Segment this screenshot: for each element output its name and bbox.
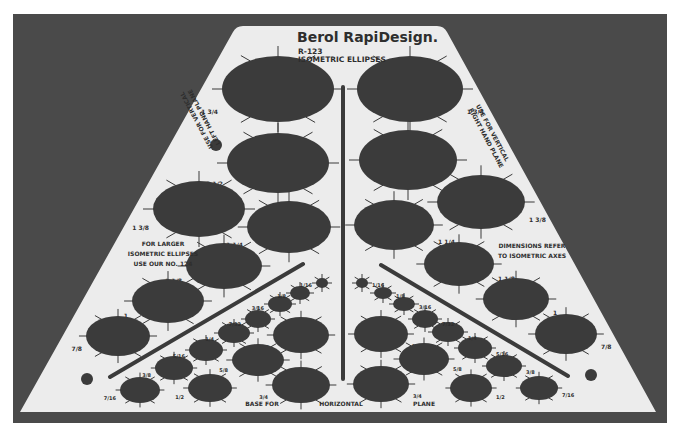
ellipse-size-label: 7/32 — [442, 321, 455, 327]
ellipse-opening — [273, 317, 329, 353]
larger-note-3: USE OUR NO. 124 — [134, 260, 193, 267]
ellipse-size-label: 1 3/8 — [132, 224, 149, 231]
ellipse-size-label: 5/8 — [219, 367, 228, 373]
ellipse-size-label: 5/16 — [173, 353, 186, 359]
ellipse-opening — [520, 376, 558, 400]
ellipse-opening — [155, 356, 193, 380]
ellipse-size-label: 1/8 — [277, 293, 286, 299]
ellipse-size-label: 1/2 — [175, 394, 184, 400]
center-slot — [341, 85, 345, 381]
ellipse-size-label: 7/8 — [71, 345, 82, 352]
ellipse-opening — [483, 278, 549, 320]
brand-label: Berol RapiDesign. — [297, 29, 438, 45]
ellipse-opening — [354, 316, 408, 352]
ellipse-opening — [374, 287, 392, 299]
ellipse-opening — [222, 56, 334, 122]
ellipse-opening — [290, 286, 310, 300]
ellipse-opening — [120, 377, 160, 403]
ellipse-size-label: 7/16 — [562, 392, 575, 398]
ellipse-size-label: 3/16 — [419, 304, 432, 310]
ellipse-opening — [412, 310, 438, 328]
ellipse-opening — [356, 278, 368, 288]
base-label-2: HORIZONTAL — [319, 400, 363, 407]
ellipse-size-label: 1/4 — [205, 336, 214, 342]
ellipse-size-label: 3/16 — [252, 305, 265, 311]
dimensions-note-2: TO ISOMETRIC AXES — [498, 252, 566, 259]
ellipse-opening — [354, 200, 434, 250]
ellipse-opening — [232, 344, 284, 376]
circle-hole — [585, 369, 597, 381]
ellipse-size-label: 1/16 — [300, 282, 313, 288]
base-label-3: PLANE — [413, 400, 435, 407]
ellipse-size-label: 1 3/8 — [529, 216, 546, 223]
stencil-template: 1 3/41 3/41 1/21 1/21 3/81 1/41 1/41 3/8… — [0, 0, 678, 433]
ellipse-size-label: 3/8 — [142, 372, 151, 378]
ellipse-opening — [316, 278, 328, 288]
ellipse-size-label: 1/2 — [496, 394, 505, 400]
ellipse-opening — [153, 181, 245, 237]
ellipse-size-label: 1/16 — [372, 282, 385, 288]
ellipse-opening — [486, 355, 522, 377]
ellipse-opening — [450, 374, 492, 402]
base-label-1: BASE FOR — [245, 400, 279, 407]
ellipse-opening — [272, 367, 330, 403]
ellipse-size-label: 7/16 — [104, 395, 117, 401]
ellipse-opening — [189, 339, 223, 361]
ellipse-size-label: 5/16 — [496, 351, 509, 357]
ellipse-size-label: 3/8 — [526, 369, 535, 375]
ellipse-opening — [86, 316, 150, 356]
ellipse-opening — [353, 366, 409, 402]
title-label: ISOMETRIC ELLIPSES — [298, 55, 386, 64]
ellipse-opening — [424, 242, 494, 286]
larger-note-1: FOR LARGER — [142, 240, 185, 247]
ellipse-size-label: 5/8 — [453, 366, 462, 372]
ellipse-size-label: 1 — [553, 309, 557, 316]
ellipse-size-label: 7/8 — [601, 343, 612, 350]
ellipse-opening — [357, 56, 463, 122]
circle-hole — [81, 373, 93, 385]
ellipse-opening — [359, 130, 457, 190]
ellipse-size-label: 3/4 — [259, 394, 268, 400]
larger-note-2: ISOMETRIC ELLIPSES — [128, 250, 198, 257]
ellipse-opening — [393, 297, 415, 311]
ellipse-opening — [188, 374, 232, 402]
ellipse-size-label: 7/32 — [229, 321, 242, 327]
ellipse-size-label: 1/8 — [396, 293, 405, 299]
dimensions-note-1: DIMENSIONS REFER — [499, 242, 566, 249]
ellipse-opening — [437, 175, 525, 229]
ellipse-opening — [247, 201, 331, 253]
ellipse-opening — [227, 133, 329, 193]
ellipse-opening — [535, 314, 597, 354]
ellipse-size-label: 3/4 — [413, 393, 422, 399]
ellipse-opening — [132, 279, 204, 323]
ellipse-opening — [399, 343, 449, 375]
ellipse-opening — [245, 310, 271, 328]
ellipse-size-label: 1/4 — [468, 335, 477, 341]
